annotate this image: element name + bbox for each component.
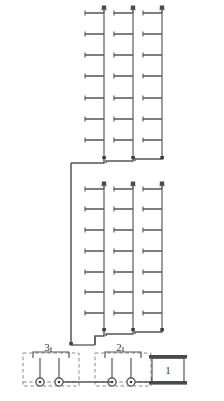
lower-riser-2: [130, 182, 135, 331]
unit-1-base-plate: [149, 381, 187, 385]
unit-2-label: 2: [116, 341, 122, 353]
lower-branch-row: [85, 227, 162, 232]
lower-branch-row: [85, 206, 162, 211]
lower-branch-row: [85, 248, 162, 253]
upper-riser-3: [159, 6, 164, 159]
station-feed-lines: [71, 336, 95, 345]
pump-icon: [36, 378, 44, 386]
unit-3-dashed-outline: [23, 353, 79, 386]
unit-3-label: 3: [44, 341, 50, 353]
lower-branch-row: [85, 186, 162, 191]
figure-caption: [0, 392, 224, 401]
upper-branch-row: [85, 10, 162, 15]
pump-icon: [127, 378, 135, 386]
upper-branch-row: [85, 52, 162, 57]
upper-collector-line: [71, 156, 164, 163]
upper-branch-row: [85, 73, 162, 78]
pump-icon: [55, 378, 63, 386]
lower-riser-1: [101, 182, 106, 331]
upper-riser-2: [130, 6, 135, 159]
upper-riser-1: [101, 6, 106, 159]
main-downfeed-riser: [69, 163, 73, 345]
valve-cap-icon: [130, 6, 135, 13]
equipment-unit-1[interactable]: 1: [149, 355, 187, 385]
equipment-unit-3[interactable]: 3: [23, 341, 79, 386]
upper-branch-row: [85, 31, 162, 36]
valve-cap-icon: [101, 182, 106, 189]
upper-floor-group: [71, 6, 165, 164]
lower-branch-row: [85, 269, 162, 274]
valve-cap-icon: [130, 182, 135, 189]
valve-cap-icon: [101, 6, 106, 13]
lower-branch-row: [85, 310, 162, 315]
upper-branch-row: [85, 95, 162, 100]
lower-branch-row: [85, 289, 162, 294]
riser-diagram-svg: 3 2 1: [0, 0, 224, 401]
unit-2-dashed-outline: [95, 353, 151, 386]
riser-diagram-canvas: 3 2 1: [0, 0, 224, 401]
valve-cap-icon: [159, 6, 164, 13]
suction-header-line: [63, 378, 152, 382]
unit-1-label: 1: [165, 364, 171, 376]
valve-cap-icon: [159, 182, 164, 189]
unit-1-top-plate: [149, 355, 187, 359]
upper-branch-row: [85, 116, 162, 121]
equipment-unit-2[interactable]: 2: [95, 341, 151, 386]
upper-branch-row: [85, 137, 162, 142]
lower-collector-line: [95, 328, 164, 345]
lower-riser-3: [159, 182, 164, 331]
lower-floor-group: [85, 182, 165, 346]
